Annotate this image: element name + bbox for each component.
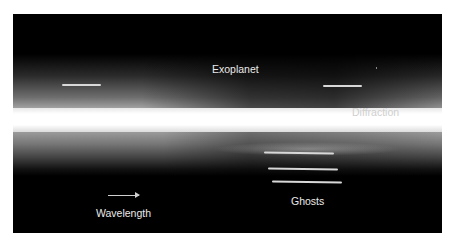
ghosts-label: Ghosts — [291, 195, 324, 207]
speck — [376, 67, 377, 69]
spectrum-image — [13, 14, 442, 233]
exoplanet-marker-right — [323, 85, 362, 87]
ghost-glow — [213, 142, 402, 156]
exoplanet-marker-left — [62, 84, 101, 86]
wavelength-label: Wavelength — [96, 207, 151, 219]
diffraction-label: Diffraction — [352, 106, 399, 118]
wavelength-arrow-icon — [108, 195, 139, 196]
exoplanet-label: Exoplanet — [212, 63, 259, 75]
